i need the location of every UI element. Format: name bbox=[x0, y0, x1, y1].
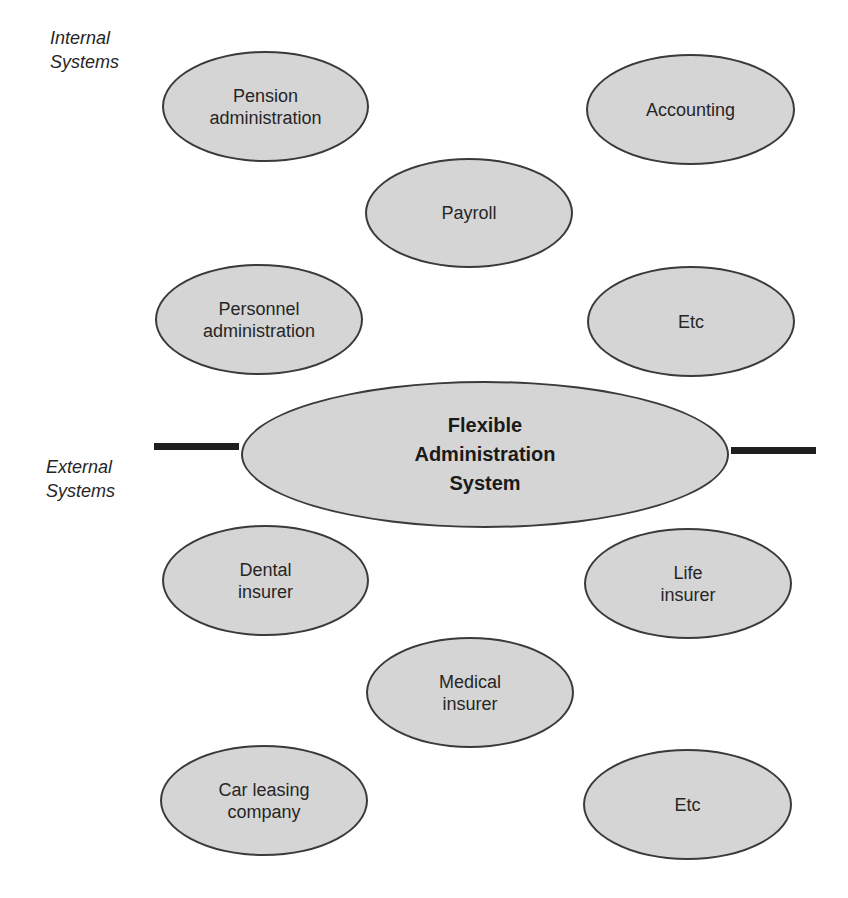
node-label: company bbox=[227, 801, 300, 823]
node-medical-insurer: Medical insurer bbox=[366, 637, 574, 748]
node-life-insurer: Life insurer bbox=[584, 528, 792, 639]
right-connector-bar bbox=[731, 447, 816, 454]
node-label: Dental bbox=[239, 559, 291, 581]
node-personnel-administration: Personnel administration bbox=[155, 264, 363, 375]
node-label: Payroll bbox=[441, 202, 496, 224]
node-label: Pension bbox=[233, 85, 298, 107]
node-label: administration bbox=[203, 320, 315, 342]
node-dental-insurer: Dental insurer bbox=[162, 525, 369, 636]
node-label: insurer bbox=[442, 693, 497, 715]
label-line: External bbox=[46, 455, 115, 479]
node-label: administration bbox=[209, 107, 321, 129]
central-label: Administration bbox=[414, 440, 555, 469]
node-label: Car leasing bbox=[218, 779, 309, 801]
node-label: Etc bbox=[678, 311, 704, 333]
node-label: insurer bbox=[660, 584, 715, 606]
node-label: insurer bbox=[238, 581, 293, 603]
left-connector-bar bbox=[154, 443, 239, 450]
label-line: Systems bbox=[46, 479, 115, 503]
node-label: Life bbox=[673, 562, 702, 584]
node-label: Medical bbox=[439, 671, 501, 693]
system-context-diagram: Internal Systems External Systems Pensio… bbox=[0, 0, 848, 898]
label-line: Internal bbox=[50, 26, 119, 50]
node-pension-administration: Pension administration bbox=[162, 51, 369, 162]
node-car-leasing-company: Car leasing company bbox=[160, 745, 368, 856]
external-systems-label: External Systems bbox=[46, 455, 115, 503]
internal-systems-label: Internal Systems bbox=[50, 26, 119, 74]
label-line: Systems bbox=[50, 50, 119, 74]
central-label: System bbox=[449, 469, 520, 498]
node-accounting: Accounting bbox=[586, 54, 795, 165]
node-internal-etc: Etc bbox=[587, 266, 795, 377]
node-payroll: Payroll bbox=[365, 158, 573, 268]
node-external-etc: Etc bbox=[583, 749, 792, 860]
node-label: Personnel bbox=[218, 298, 299, 320]
node-flexible-administration-system: Flexible Administration System bbox=[241, 381, 729, 528]
node-label: Etc bbox=[674, 794, 700, 816]
node-label: Accounting bbox=[646, 99, 735, 121]
central-label: Flexible bbox=[448, 411, 522, 440]
